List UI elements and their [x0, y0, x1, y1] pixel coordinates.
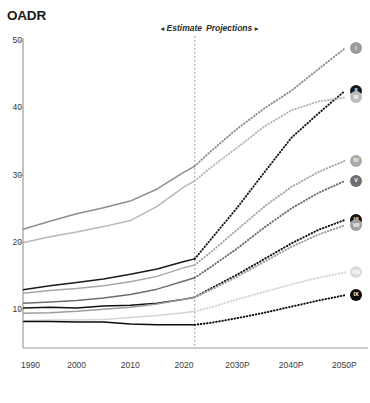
x-tick-label: 2040P — [279, 360, 304, 370]
series-line-estimate — [23, 321, 195, 324]
x-tick-label: 1990 — [21, 360, 40, 370]
x-tick-label: 2050P — [332, 360, 357, 370]
series-end-badge[interactable]: V — [350, 175, 362, 187]
x-tick-label: 2020 — [175, 360, 194, 370]
series-line-projection — [195, 161, 345, 265]
series-end-badge[interactable]: IV — [350, 155, 362, 167]
series-line-projection — [195, 272, 345, 311]
series-line-projection — [195, 295, 345, 325]
x-tick-label: 2030P — [225, 360, 250, 370]
oadr-line-chart: OADR ◂ Estimate Projections ▸ 1020304050… — [0, 0, 370, 403]
series-line-projection — [195, 48, 345, 166]
plot-area — [0, 0, 370, 403]
series-line-estimate — [23, 181, 195, 243]
series-line-projection — [195, 181, 345, 278]
x-tick-label: 2010 — [121, 360, 140, 370]
x-tick-label: 2000 — [67, 360, 86, 370]
series-line-estimate — [23, 265, 195, 293]
